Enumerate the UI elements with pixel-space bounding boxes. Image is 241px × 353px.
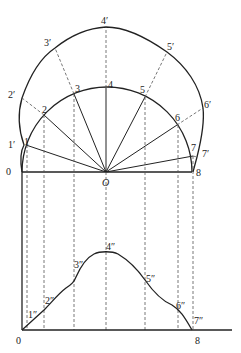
outer-label-5: 5′	[167, 41, 174, 52]
axis-right-label: 8	[195, 335, 200, 346]
profile-label-3: 3″	[74, 259, 83, 270]
profile-label-4: 4″	[106, 241, 115, 252]
inner-label-2: 2	[42, 104, 47, 115]
outer-label-4: 4′	[101, 15, 108, 26]
inner-label-1: 1	[24, 136, 29, 147]
profile-label-1: 1″	[28, 309, 37, 320]
inner-label-5: 5	[140, 84, 145, 95]
profile-label-2: 2″	[45, 295, 54, 306]
profile-curve	[22, 252, 192, 330]
profile-label-7: 7″	[194, 315, 203, 326]
base-right-label: 8	[196, 167, 201, 178]
outer-label-1: 1′	[8, 139, 15, 150]
inner-label-3: 3	[75, 83, 80, 94]
profile-label-6: 6″	[176, 300, 185, 311]
inner-label-7: 7	[191, 142, 196, 153]
radial-lines	[26, 88, 193, 172]
base-left-label: 0	[6, 166, 11, 177]
axis-left-label: 0	[16, 335, 21, 346]
outer-curve	[19, 27, 203, 172]
outer-label-2: 2′	[8, 89, 15, 100]
outer-label-7: 7′	[202, 148, 209, 159]
inner-label-4: 4	[108, 79, 113, 90]
center-label: O	[102, 177, 109, 188]
base-semicircle	[22, 87, 192, 172]
outer-label-3: 3′	[44, 37, 51, 48]
profile-label-5: 5″	[146, 273, 155, 284]
outer-label-6: 6′	[204, 99, 211, 110]
cam-profile-diagram: O 0 8 1 2 3 4 5 6 7 1′ 2′ 3′ 4′ 5′ 6′ 7′…	[0, 0, 241, 353]
inner-label-6: 6	[175, 112, 180, 123]
